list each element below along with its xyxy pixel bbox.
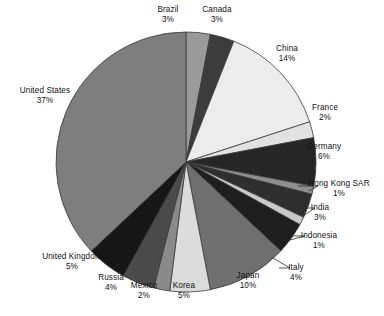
slice-label-percent: 3% [193, 15, 241, 25]
slice-label: France2% [301, 103, 349, 122]
slice-label-percent: 4% [278, 273, 314, 283]
slice-label-name: Russia [91, 273, 131, 283]
slice-label-name: United Kingdom [29, 252, 115, 262]
slice-label-percent: 1% [292, 241, 346, 251]
slice-label: Russia4% [91, 273, 131, 292]
slice-label-name: France [301, 103, 349, 113]
slice-label: United Kingdom5% [29, 252, 115, 271]
slice-label: China14% [263, 44, 311, 63]
slice-label: Italy4% [278, 263, 314, 282]
slice-label-percent: 5% [29, 262, 115, 272]
slice-label: Japan10% [226, 271, 270, 290]
slice-label-name: United States [8, 86, 82, 96]
slice-label-name: Hong Kong SAR [297, 179, 381, 189]
slice-label-percent: 5% [164, 291, 204, 301]
slice-label-percent: 3% [300, 213, 340, 223]
slice-label-name: India [300, 203, 340, 213]
slice-label-name: Italy [278, 263, 314, 273]
slice-label-name: Canada [193, 5, 241, 15]
slice-label-percent: 37% [8, 96, 82, 106]
slice-label: Korea5% [164, 281, 204, 300]
slice-label: Hong Kong SAR1% [297, 179, 381, 198]
slice-label-percent: 1% [297, 189, 381, 199]
slice-label-name: Brazil [146, 5, 190, 15]
slice-label: Brazil3% [146, 5, 190, 24]
slice-label-percent: 14% [263, 54, 311, 64]
slice-label-percent: 6% [296, 152, 352, 162]
slice-label: United States37% [8, 86, 82, 105]
slice-label-name: China [263, 44, 311, 54]
slice-label-percent: 2% [301, 113, 349, 123]
slice-label-name: Indonesia [292, 231, 346, 241]
slice-label-percent: 10% [226, 281, 270, 291]
slice-label-name: Japan [226, 271, 270, 281]
slice-label-percent: 3% [146, 15, 190, 25]
pie-chart: Brazil3%Canada3%China14%France2%Germany6… [0, 0, 384, 316]
slice-label-name: Germany [296, 142, 352, 152]
slice-label: Indonesia1% [292, 231, 346, 250]
slice-label: Germany6% [296, 142, 352, 161]
slice-label: Canada3% [193, 5, 241, 24]
slice-label-percent: 4% [91, 283, 131, 293]
slice-label: India3% [300, 203, 340, 222]
slice-label-name: Korea [164, 281, 204, 291]
